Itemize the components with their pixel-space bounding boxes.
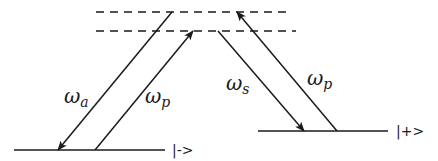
omega-s-label: ωs (226, 71, 250, 97)
plus-state-label: |+> (396, 123, 424, 140)
omega-p-left-arrow (95, 31, 193, 150)
omega-a-label: ωa (64, 84, 89, 110)
energy-level-diagram: ωa ωp ωs ωp |-> |+> (0, 0, 438, 161)
minus-state-label: |-> (172, 142, 194, 159)
omega-p-left-label: ωp (145, 84, 170, 110)
omega-p-right-label: ωp (307, 66, 332, 92)
omega-a-arrow (58, 12, 172, 150)
